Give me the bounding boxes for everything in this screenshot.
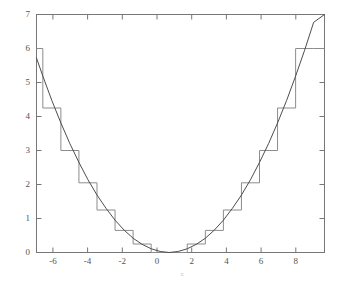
ytick-label-7: 7: [16, 9, 30, 19]
axes-frame: [37, 15, 325, 253]
xtick-label-6: 6: [249, 256, 273, 266]
tick-marks: [37, 15, 325, 253]
ytick-label-6: 6: [16, 43, 30, 53]
xtick-label-0: 0: [145, 256, 169, 266]
ytick-label-1: 1: [16, 213, 30, 223]
plot-frame: [37, 15, 325, 253]
series-smooth-parabola: [37, 15, 325, 253]
xtick-label--6: -6: [41, 256, 65, 266]
ytick-label-2: 2: [16, 179, 30, 189]
plot-canvas: [0, 0, 341, 282]
series-quantized-staircase: [37, 49, 325, 253]
xtick-label-2: 2: [180, 256, 204, 266]
xtick-label-8: 8: [284, 256, 308, 266]
x-axis-title: x: [170, 270, 194, 278]
ytick-label-0: 0: [16, 247, 30, 257]
figure: 7 6 5 4 3 2 1 0 -6 -4 -2 0 2 4 6 8 x: [0, 0, 341, 282]
ytick-label-4: 4: [16, 111, 30, 121]
ytick-label-5: 5: [16, 77, 30, 87]
ytick-label-3: 3: [16, 145, 30, 155]
xtick-label--2: -2: [110, 256, 134, 266]
xtick-label--4: -4: [76, 256, 100, 266]
xtick-label-4: 4: [214, 256, 238, 266]
